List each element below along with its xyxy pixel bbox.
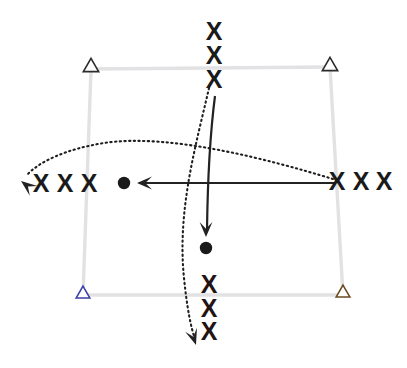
- dotted-arc-vertical-arrowhead: [185, 328, 197, 345]
- x-marker: X: [33, 169, 50, 197]
- corner-marker-top-right-icon: [322, 57, 337, 70]
- corner-marker-bottom-right-icon: [336, 285, 350, 297]
- corner-markers: [76, 57, 350, 298]
- x-group-bottom: X X X: [201, 270, 218, 345]
- player-dot-center: [200, 242, 212, 254]
- x-marker: X: [376, 167, 393, 195]
- x-marker: X: [81, 169, 98, 197]
- player-dot-left: [118, 177, 130, 189]
- x-marker: X: [329, 167, 346, 195]
- x-group-top: X X X: [206, 17, 223, 93]
- x-marker: X: [57, 169, 74, 197]
- player-dots: [118, 177, 212, 254]
- corner-marker-top-left-icon: [83, 58, 98, 71]
- x-group-left: X X X: [33, 169, 98, 197]
- corner-marker-bottom-left-icon: [76, 286, 90, 298]
- diagram-canvas: X X X X X X X X X X X X: [0, 0, 407, 368]
- x-marker: X: [353, 167, 370, 195]
- x-group-right: X X X: [329, 167, 393, 195]
- arrow-horizontal-leftward: [137, 177, 336, 190]
- arrow-vertical-downward-shaft: [207, 96, 215, 231]
- x-marker: X: [206, 65, 223, 93]
- x-marker: X: [201, 317, 218, 345]
- play-diagram: X X X X X X X X X X X X: [0, 0, 407, 368]
